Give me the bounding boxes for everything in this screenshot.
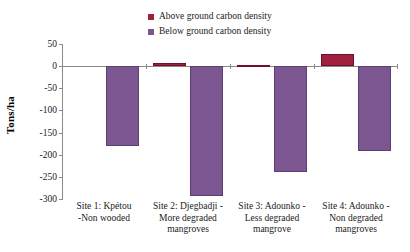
bar-below-ground — [106, 66, 140, 146]
category-label-line: Non degraded — [315, 213, 397, 225]
category-label-line: mangroves — [315, 224, 397, 236]
bar-above-ground — [153, 63, 187, 66]
category-label: Site 3: Adounko -Less degradedmangrove — [230, 201, 314, 236]
y-axis-tick — [59, 177, 63, 178]
x-axis-category-labels: Site 1: Kpétou-Non woodedSite 2: Djegbad… — [62, 201, 398, 236]
category-label-line: Site 3: Adounko - — [231, 201, 313, 213]
y-axis-tick-label: -300 — [40, 194, 57, 204]
category-label: Site 4: Adounko -Non degradedmangroves — [314, 201, 398, 236]
y-axis-tick — [59, 44, 63, 45]
y-axis-tick-label: -150 — [40, 128, 57, 138]
legend-label-above-ground: Above ground carbon density — [159, 12, 272, 22]
bar-above-ground — [237, 65, 271, 67]
bar-below-ground — [274, 66, 308, 171]
category-label-line: More degraded — [147, 213, 229, 225]
bar-below-ground — [358, 66, 392, 151]
y-axis-tick-label: 0 — [52, 61, 57, 71]
category-label-line: Site 1: Kpétou — [63, 201, 145, 213]
x-axis-tick — [397, 64, 398, 69]
y-axis-tick — [59, 88, 63, 89]
x-axis-tick — [62, 64, 63, 69]
x-axis-tick — [146, 64, 147, 69]
category-label-line: mangrove — [231, 224, 313, 236]
x-axis-tick — [230, 64, 231, 69]
y-axis-tick-label: -50 — [44, 83, 57, 93]
y-axis-tick-label: -250 — [40, 172, 57, 182]
chart-legend: Above ground carbon density Below ground… — [148, 10, 272, 38]
legend-item-below-ground: Below ground carbon density — [148, 25, 272, 38]
plot-area: 500-50-100-150-200-250-300 — [62, 44, 398, 199]
bar-above-ground — [321, 54, 355, 66]
bar-below-ground — [190, 66, 224, 196]
category-label: Site 1: Kpétou-Non wooded — [62, 201, 146, 236]
category-label-line: Less degraded — [231, 213, 313, 225]
y-axis-tick — [59, 155, 63, 156]
category-label: Site 2: Djegbadji -More degradedmangrove… — [146, 201, 230, 236]
y-axis-tick — [59, 133, 63, 134]
category-label-line: -Non wooded — [63, 213, 145, 225]
carbon-density-bar-chart: Above ground carbon density Below ground… — [0, 0, 410, 252]
x-axis-tick — [314, 64, 315, 69]
y-axis-tick — [59, 199, 63, 200]
category-label-line: mangroves — [147, 224, 229, 236]
category-label-line: Site 2: Djegbadji - — [147, 201, 229, 213]
y-axis-tick-label: -200 — [40, 150, 57, 160]
y-axis-tick-label: -100 — [40, 105, 57, 115]
legend-label-below-ground: Below ground carbon density — [159, 27, 271, 37]
y-axis-tick-label: 50 — [48, 39, 58, 49]
category-label-line: Site 4: Adounko - — [315, 201, 397, 213]
legend-item-above-ground: Above ground carbon density — [148, 10, 272, 23]
y-axis-tick — [59, 110, 63, 111]
legend-swatch-below-ground — [148, 29, 154, 35]
y-axis-title: Tons/ha — [4, 96, 16, 134]
legend-swatch-above-ground — [148, 14, 154, 20]
